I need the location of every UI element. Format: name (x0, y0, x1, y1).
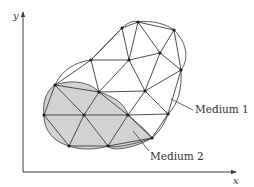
mesh-node (53, 83, 56, 86)
mesh-edge (160, 30, 174, 53)
mesh-edge (129, 22, 138, 60)
medium-1-label: Medium 1 (195, 103, 249, 115)
mesh-node (166, 112, 169, 115)
mesh-node (172, 28, 175, 31)
mesh-node (158, 51, 161, 54)
diagram-canvas: y x Medium 1 Medium 2 (0, 0, 254, 187)
mesh-node (136, 20, 139, 23)
y-axis-label: y (12, 10, 19, 21)
mesh-node (89, 58, 92, 61)
mesh-node (126, 113, 129, 116)
mesh-edge (122, 28, 129, 60)
x-axis-label: x (233, 175, 239, 186)
mesh-node (120, 26, 123, 29)
mesh-edge (99, 91, 145, 92)
mesh-node (106, 144, 109, 147)
mesh-edge (129, 60, 145, 91)
mesh-node (97, 90, 100, 93)
mesh-edge (145, 53, 160, 91)
medium-2-label: Medium 2 (150, 150, 204, 162)
mesh-node (42, 113, 45, 116)
mesh-edge (160, 53, 181, 70)
mesh-node (143, 89, 146, 92)
mesh-node (127, 58, 130, 61)
mesh-edge (128, 91, 145, 115)
mesh-edge (55, 60, 91, 85)
medium-1-leader-line (171, 99, 193, 110)
mesh-edge (128, 114, 168, 115)
mesh-node (67, 144, 70, 147)
mesh-node (179, 68, 182, 71)
mesh-edge (138, 22, 174, 30)
mesh-edge (129, 53, 160, 60)
mesh-edge (138, 22, 160, 53)
mesh-node (82, 113, 85, 116)
mesh-edge (145, 91, 168, 114)
mesh-edge (91, 28, 122, 60)
mesh-node (150, 136, 153, 139)
mesh-edge (99, 60, 129, 92)
mesh-edge (152, 114, 168, 138)
mesh-edge (174, 30, 181, 70)
